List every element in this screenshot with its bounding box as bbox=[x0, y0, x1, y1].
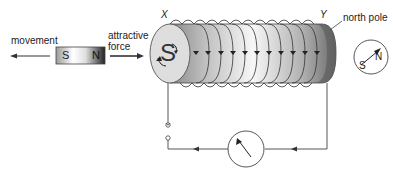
compass-south-label: S bbox=[359, 60, 366, 71]
north-pole-pointer bbox=[330, 21, 342, 30]
movement-arrow bbox=[10, 54, 50, 59]
magnet-north-label: N bbox=[92, 50, 100, 61]
galvanometer bbox=[228, 131, 264, 167]
coil-pole-letter: S bbox=[160, 40, 176, 66]
end-x-label: X bbox=[161, 9, 168, 20]
movement-label: movement bbox=[11, 35, 58, 46]
solenoid-coil bbox=[170, 20, 336, 87]
attractive-label: attractive bbox=[108, 30, 149, 41]
switch bbox=[166, 123, 170, 140]
magnet-south-label: S bbox=[62, 50, 69, 61]
electromagnetic-induction-diagram bbox=[0, 0, 393, 177]
end-y-label: Y bbox=[320, 9, 327, 20]
compass-north-label: N bbox=[375, 51, 382, 62]
north-pole-label: north pole bbox=[343, 12, 387, 23]
force-label: force bbox=[108, 41, 130, 52]
attractive-force-arrow bbox=[110, 53, 144, 59]
